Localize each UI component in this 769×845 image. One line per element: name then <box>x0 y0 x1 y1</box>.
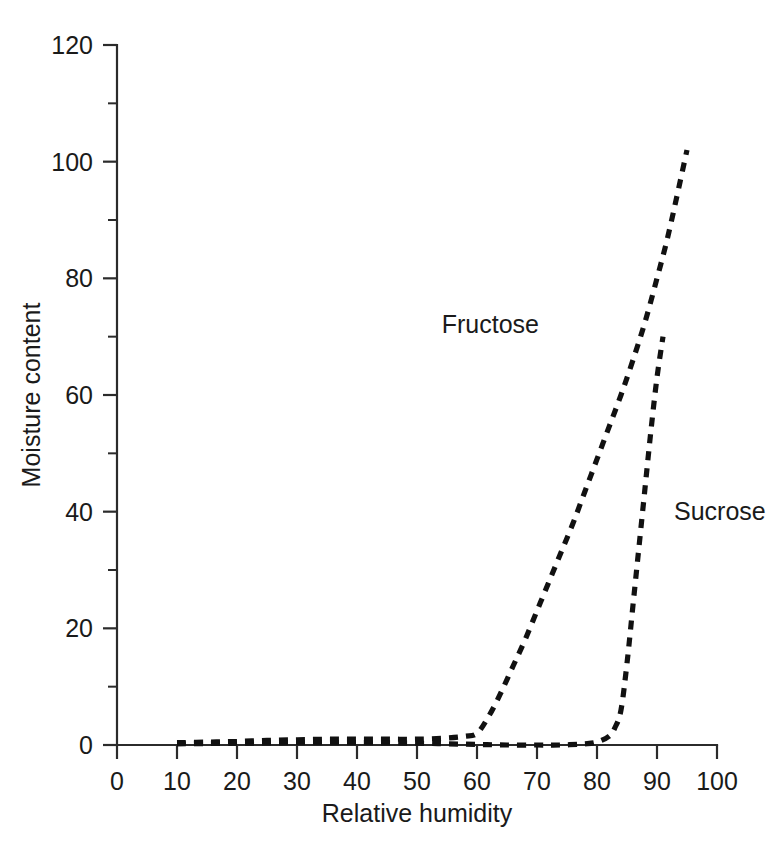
series-label-sucrose: Sucrose <box>674 497 766 525</box>
y-tick-label: 120 <box>51 31 93 59</box>
y-tick-label: 40 <box>65 498 93 526</box>
x-tick-label: 10 <box>163 767 191 795</box>
y-tick-label: 60 <box>65 381 93 409</box>
x-tick-label: 100 <box>696 767 738 795</box>
x-tick-label: 90 <box>643 767 671 795</box>
x-axis-title: Relative humidity <box>322 799 513 827</box>
y-tick-label: 20 <box>65 614 93 642</box>
x-tick-label: 70 <box>523 767 551 795</box>
series-label-fructose: Fructose <box>442 310 539 338</box>
moisture-humidity-chart: 0102030405060708090100 020406080100120 R… <box>0 0 769 845</box>
y-tick-label: 0 <box>79 731 93 759</box>
y-axis-title: Moisture content <box>17 303 45 488</box>
x-tick-label: 50 <box>403 767 431 795</box>
x-tick-label: 20 <box>223 767 251 795</box>
x-tick-label: 0 <box>110 767 124 795</box>
x-tick-label: 60 <box>463 767 491 795</box>
x-tick-label: 30 <box>283 767 311 795</box>
x-tick-label: 80 <box>583 767 611 795</box>
y-tick-label: 80 <box>65 264 93 292</box>
x-tick-label: 40 <box>343 767 371 795</box>
y-tick-label: 100 <box>51 148 93 176</box>
